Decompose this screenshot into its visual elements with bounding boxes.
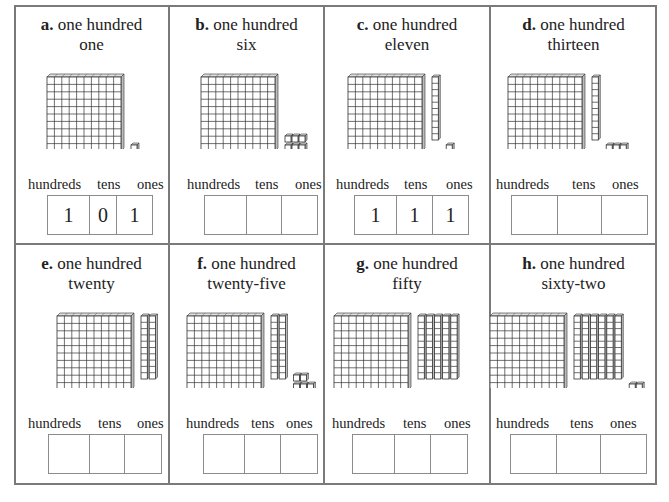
hundreds-flat-icon bbox=[490, 313, 567, 388]
answer-box-hundreds[interactable] bbox=[49, 435, 90, 473]
problem-text-line2: twenty bbox=[68, 274, 114, 293]
answer-boxes bbox=[352, 434, 468, 474]
label-ones: ones bbox=[295, 176, 322, 193]
problem-title: d. one hundredthirteen bbox=[490, 15, 657, 55]
label-ones: ones bbox=[446, 176, 473, 193]
problem-cell-h: h. one hundredsixty-twohundredstensones bbox=[490, 244, 657, 485]
answer-box-hundreds[interactable] bbox=[205, 196, 247, 234]
answer-box-ones[interactable] bbox=[125, 435, 161, 473]
problem-text-line2: six bbox=[237, 35, 257, 54]
problem-letter: h. bbox=[522, 254, 536, 273]
tens-rod-icon bbox=[443, 314, 451, 379]
answer-box-hundreds[interactable] bbox=[512, 196, 558, 234]
answer-box-tens[interactable] bbox=[90, 435, 125, 473]
problem-text-line2: twenty-five bbox=[207, 274, 285, 293]
answer-box-tens[interactable] bbox=[245, 435, 281, 473]
problem-letter: b. bbox=[195, 15, 209, 34]
problem-title: c. one hundredeleven bbox=[324, 15, 490, 55]
problem-letter: g. bbox=[356, 254, 369, 273]
problem-text-line1: one hundred bbox=[373, 15, 458, 34]
problem-text-line1: one hundred bbox=[211, 254, 296, 273]
label-ones: ones bbox=[137, 415, 164, 432]
tens-rod-icon bbox=[434, 314, 442, 379]
label-ones: ones bbox=[137, 176, 164, 193]
answer-box-hundreds[interactable]: 1 bbox=[355, 196, 397, 234]
hundreds-flat-icon bbox=[348, 74, 425, 149]
problem-letter: f. bbox=[197, 254, 207, 273]
base-ten-blocks bbox=[14, 308, 169, 388]
ones-cube-icon bbox=[307, 382, 315, 388]
ones-cube-icon bbox=[300, 373, 308, 381]
answer-box-hundreds[interactable] bbox=[204, 435, 245, 473]
tens-rod-icon bbox=[582, 314, 590, 379]
base-ten-blocks bbox=[14, 69, 169, 149]
hundreds-flat-icon bbox=[57, 313, 134, 388]
label-hundreds: hundreds bbox=[332, 415, 385, 432]
answer-boxes: 111 bbox=[354, 195, 469, 235]
tens-rod-icon bbox=[418, 314, 426, 379]
answer-box-ones[interactable] bbox=[602, 196, 647, 234]
answer-box-ones[interactable] bbox=[431, 435, 467, 473]
answer-boxes: 101 bbox=[47, 195, 153, 235]
problem-title: f. one hundredtwenty-five bbox=[169, 254, 324, 294]
problem-text-line1: one hundred bbox=[57, 254, 142, 273]
ones-cube-icon bbox=[299, 134, 307, 142]
label-hundreds: hundreds bbox=[186, 415, 239, 432]
answer-box-ones[interactable] bbox=[281, 435, 317, 473]
problem-letter: c. bbox=[357, 15, 369, 34]
tens-rod-icon bbox=[279, 314, 287, 379]
answer-box-tens[interactable]: 1 bbox=[397, 196, 433, 234]
label-ones: ones bbox=[610, 415, 637, 432]
label-tens: tens bbox=[403, 415, 426, 432]
problem-cell-d: d. one hundredthirteenhundredstensones bbox=[490, 5, 657, 244]
problem-cell-e: e. one hundredtwentyhundredstensones bbox=[14, 244, 169, 485]
label-tens: tens bbox=[97, 176, 120, 193]
label-ones: ones bbox=[286, 415, 313, 432]
problem-text-line1: one hundred bbox=[213, 15, 298, 34]
tens-rod-icon bbox=[141, 314, 149, 379]
label-hundreds: hundreds bbox=[28, 176, 81, 193]
base-ten-blocks bbox=[324, 308, 490, 388]
label-hundreds: hundreds bbox=[28, 415, 81, 432]
answer-box-hundreds[interactable]: 1 bbox=[48, 196, 90, 234]
label-hundreds: hundreds bbox=[496, 415, 549, 432]
problem-letter: e. bbox=[41, 254, 53, 273]
ones-cube-icon bbox=[299, 143, 307, 149]
problem-text-line1: one hundred bbox=[58, 15, 143, 34]
label-ones: ones bbox=[444, 415, 471, 432]
tens-rod-icon bbox=[590, 314, 598, 379]
label-hundreds: hundreds bbox=[496, 176, 549, 193]
base-ten-blocks bbox=[324, 69, 490, 149]
base-ten-blocks bbox=[490, 69, 657, 149]
tens-rod-icon bbox=[426, 314, 434, 379]
problem-title: a. one hundredone bbox=[14, 15, 169, 55]
problem-letter: d. bbox=[522, 15, 536, 34]
answer-box-hundreds[interactable] bbox=[511, 435, 557, 473]
problem-letter: a. bbox=[41, 15, 54, 34]
answer-boxes bbox=[511, 195, 648, 235]
answer-boxes bbox=[204, 195, 318, 235]
tens-rod-icon bbox=[615, 314, 623, 379]
answer-box-tens[interactable] bbox=[558, 196, 602, 234]
tens-rod-icon bbox=[149, 314, 157, 379]
answer-box-tens[interactable] bbox=[247, 196, 282, 234]
tens-rod-icon bbox=[574, 314, 582, 379]
ones-cube-icon bbox=[131, 143, 139, 149]
hundreds-flat-icon bbox=[187, 313, 264, 388]
answer-box-ones[interactable] bbox=[282, 196, 317, 234]
tens-rod-icon bbox=[451, 314, 459, 379]
answer-box-ones[interactable] bbox=[601, 435, 646, 473]
answer-box-ones[interactable]: 1 bbox=[433, 196, 468, 234]
answer-box-ones[interactable]: 1 bbox=[117, 196, 152, 234]
answer-box-tens[interactable] bbox=[557, 435, 601, 473]
answer-box-tens[interactable]: 0 bbox=[90, 196, 117, 234]
tens-rod-icon bbox=[607, 314, 615, 379]
label-tens: tens bbox=[251, 415, 274, 432]
base-ten-blocks bbox=[169, 69, 324, 149]
tens-rod-icon bbox=[592, 75, 600, 140]
problem-title: g. one hundredfifty bbox=[324, 254, 490, 294]
answer-box-hundreds[interactable] bbox=[353, 435, 395, 473]
answer-box-tens[interactable] bbox=[395, 435, 431, 473]
hundreds-flat-icon bbox=[201, 74, 278, 149]
problem-title: b. one hundredsix bbox=[169, 15, 324, 55]
